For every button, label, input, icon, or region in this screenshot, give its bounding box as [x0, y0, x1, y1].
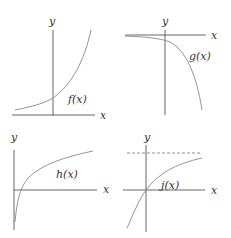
panel-g: y x g(x) — [125, 15, 218, 115]
function-label: h(x) — [56, 168, 78, 181]
y-axis-label: y — [48, 15, 56, 28]
function-label: f(x) — [67, 93, 87, 106]
panel-f: y x f(x) — [12, 15, 107, 122]
y-axis-label: y — [143, 131, 151, 144]
curve-j — [127, 158, 202, 228]
y-axis-label: y — [10, 131, 18, 144]
panel-j: y x j(x) — [123, 131, 218, 232]
x-axis-label: x — [211, 29, 218, 42]
panel-h: y x h(x) — [10, 131, 110, 230]
function-graphs-figure: y x f(x) y x g(x) y x h(x) y x j(x) — [0, 0, 231, 238]
x-axis-label: x — [100, 109, 107, 122]
function-label: g(x) — [189, 50, 211, 63]
x-axis-label: x — [211, 184, 218, 197]
x-axis-label: x — [103, 183, 110, 196]
curve-h — [15, 151, 93, 222]
function-label: j(x) — [158, 179, 179, 192]
curve-g — [125, 36, 202, 110]
y-axis-label: y — [161, 15, 169, 28]
